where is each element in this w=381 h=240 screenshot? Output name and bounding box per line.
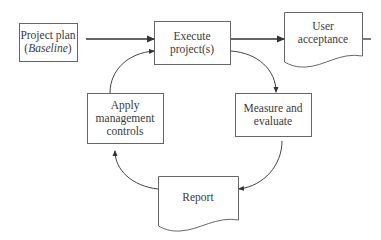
report-label: Report: [158, 178, 238, 216]
apply-label: Apply management controls: [87, 93, 163, 143]
measure-line1: Measure and: [243, 102, 302, 115]
user-acceptance-label: User acceptance: [284, 14, 362, 52]
project-plan-label: Project plan (Baseline): [19, 23, 77, 61]
apply-line1: Apply: [111, 99, 140, 112]
measure-label: Measure and evaluate: [235, 93, 311, 136]
paren-close: ): [68, 42, 72, 54]
user-acceptance-line2: acceptance: [298, 33, 348, 46]
user-acceptance-line1: User: [312, 20, 334, 33]
execute-label: Execute project(s): [154, 21, 230, 64]
apply-line3: controls: [106, 125, 143, 138]
arrow-measure-to-report: [239, 141, 282, 189]
arrow-report-to-apply: [115, 151, 158, 189]
arrow-execute-to-measure: [231, 51, 276, 92]
report-line1: Report: [182, 191, 213, 204]
execute-line1: Execute: [173, 30, 210, 43]
apply-line2: management: [96, 112, 155, 125]
measure-line2: evaluate: [254, 115, 292, 128]
project-plan-line2: (Baseline): [24, 42, 71, 55]
arrow-apply-to-execute: [110, 51, 154, 93]
execute-line2: project(s): [170, 43, 214, 56]
baseline-text: Baseline: [28, 42, 68, 54]
project-plan-line1: Project plan: [20, 29, 75, 42]
